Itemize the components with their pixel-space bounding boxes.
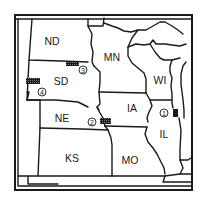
state-border-ia-il	[147, 100, 152, 122]
state-border-ia-mo	[105, 126, 147, 127]
state-border-sd-mn	[94, 66, 100, 110]
site-marker-1: 1	[160, 109, 178, 117]
state-label-il: IL	[160, 128, 169, 140]
site-marker-3: 3	[66, 61, 87, 74]
marker-number: 1	[162, 110, 166, 117]
lake-michigan-north-shore	[150, 44, 180, 60]
map-canvas: ND MN SD WI NE IA IL KS MO 1 2 3	[0, 0, 200, 200]
state-border-mn-wi	[128, 30, 146, 93]
state-border-ne-west	[27, 100, 40, 128]
michigan-west-shore	[181, 62, 186, 118]
state-label-ks: KS	[65, 152, 79, 164]
site-3-region-hatched	[66, 61, 79, 66]
state-border-southeast	[163, 176, 192, 182]
state-border-il-in	[179, 118, 183, 174]
state-label-nd: ND	[44, 35, 60, 47]
state-border-wi-mi	[128, 40, 186, 47]
oklahoma-panhandle	[28, 176, 58, 184]
site-marker-2: 2	[88, 118, 111, 126]
marker-number: 4	[40, 89, 44, 96]
state-border-ks-mo	[105, 126, 112, 176]
state-label-ne: NE	[55, 112, 70, 124]
map-frame	[15, 15, 192, 190]
site-1-region-solid	[173, 109, 178, 117]
state-border-mn-ia	[99, 92, 146, 93]
wi-lake-michigan-shore	[170, 60, 173, 108]
state-border-mo-ar	[112, 174, 192, 176]
site-4-region-hatched	[26, 78, 40, 84]
state-label-sd: SD	[54, 75, 69, 87]
in-ky-border	[180, 158, 191, 160]
state-label-mn: MN	[104, 51, 120, 63]
lake-superior-shore	[104, 22, 183, 34]
marker-number: 2	[90, 119, 94, 126]
state-label-mo: MO	[122, 154, 139, 166]
state-border-wi-il	[146, 93, 172, 100]
state-label-ia: IA	[127, 102, 137, 114]
site-2-region-hatched	[100, 118, 111, 124]
state-border-ne-ks	[40, 128, 108, 130]
midwest-map: ND MN SD WI NE IA IL KS MO 1 2 3	[0, 0, 200, 200]
state-border-co-ks	[38, 128, 40, 176]
state-label-wi: WI	[154, 74, 167, 86]
marker-number: 3	[81, 67, 85, 74]
